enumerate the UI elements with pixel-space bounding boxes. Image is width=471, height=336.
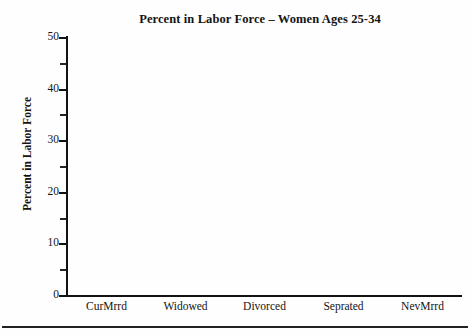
y-axis-tick-labels: 50403020100: [30, 0, 59, 336]
y-axis-tick-major: [59, 192, 66, 194]
x-axis-tick-labels: CurMrrdWidowedDivorcedSepratedNevMrrd: [67, 300, 462, 320]
y-axis-tick-label: 50: [33, 31, 59, 43]
y-axis-tick-major: [59, 89, 66, 91]
y-axis-tick-label: 0: [33, 289, 59, 301]
x-axis-category-label: NevMrrd: [378, 300, 468, 312]
y-axis-tick-major: [59, 140, 66, 142]
x-axis-category-label: Widowed: [141, 300, 231, 312]
page-divider-rule: [2, 326, 468, 328]
x-axis-category-label: CurMrrd: [62, 300, 152, 312]
chart-figure: Percent in Labor Force – Women Ages 25-3…: [0, 0, 471, 336]
y-axis-tick-label: 30: [33, 134, 59, 146]
y-axis-tick-label: 20: [33, 186, 59, 198]
y-axis-tick-minor: [60, 166, 66, 168]
x-axis-category-label: Seprated: [299, 300, 389, 312]
y-axis-tick-label: 10: [33, 237, 59, 249]
y-axis-tick-minor: [60, 63, 66, 65]
y-axis-tick-major: [59, 295, 66, 297]
y-axis-tick-minor: [60, 269, 66, 271]
plot-area: [67, 38, 462, 296]
y-axis-tick-label: 40: [33, 83, 59, 95]
y-axis-tick-minor: [60, 218, 66, 220]
y-axis-tick-major: [59, 37, 66, 39]
chart-title: Percent in Labor Force – Women Ages 25-3…: [60, 12, 460, 27]
y-axis-tick-minor: [60, 114, 66, 116]
y-axis-tick-major: [59, 243, 66, 245]
x-axis-category-label: Divorced: [220, 300, 310, 312]
